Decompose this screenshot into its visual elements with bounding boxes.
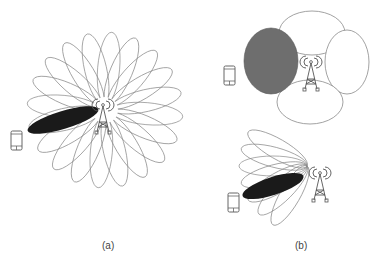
wide-beam-right	[325, 30, 369, 94]
base-station-tower-icon	[309, 167, 331, 202]
narrow-beam	[239, 139, 310, 176]
panel-a-label: (a)	[102, 240, 114, 251]
panel-b-wide-beams	[224, 11, 369, 124]
smartphone-icon	[11, 131, 22, 150]
panel-b-label: (b)	[295, 240, 307, 251]
smartphone-icon	[228, 193, 239, 212]
diagram-canvas	[0, 0, 379, 263]
narrow-beam	[108, 82, 183, 120]
selected-narrow-beam	[25, 101, 101, 140]
narrow-beam	[239, 156, 307, 176]
smartphone-icon	[224, 66, 235, 85]
selected-wide-beam	[244, 28, 298, 94]
panel-b-narrow-beams	[228, 123, 331, 230]
panel-a	[11, 31, 184, 188]
